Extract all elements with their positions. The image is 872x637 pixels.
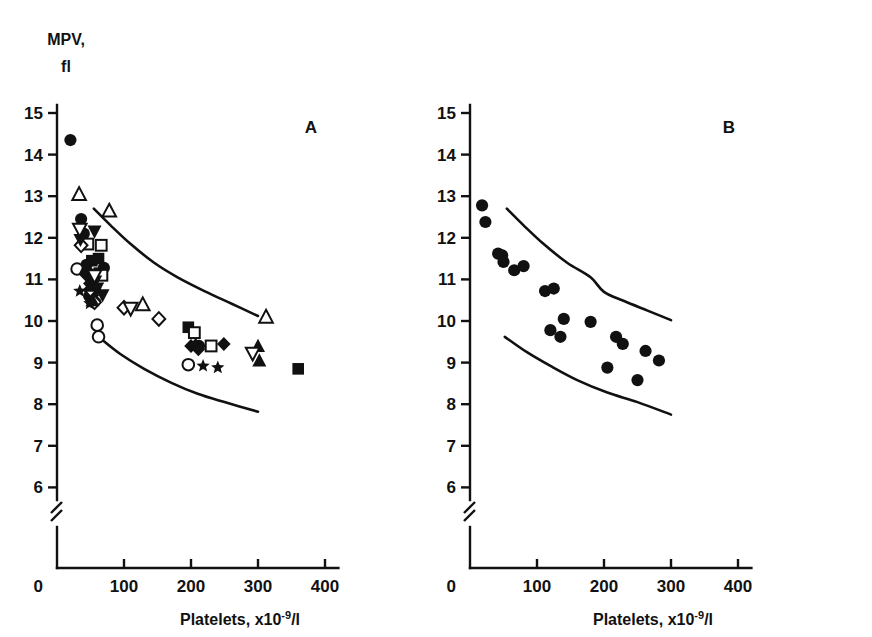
x-tick-label: 300	[657, 577, 685, 596]
y-tick-label: 11	[438, 270, 456, 289]
x-tick-label: 400	[311, 577, 339, 596]
data-point-open-up-triangle	[259, 310, 273, 323]
data-point-filled-circle	[554, 331, 566, 343]
y-tick-label-zero: 0	[447, 577, 456, 596]
x-tick-label: 400	[724, 577, 752, 596]
data-point-open-up-triangle	[72, 187, 86, 200]
x-tick-label: 100	[523, 577, 551, 596]
data-point-open-diamond	[152, 312, 165, 326]
y-tick-label: 6	[447, 478, 456, 497]
x-tick-label: 300	[244, 577, 272, 596]
panel-A: 67891011121314150100200300400APlatelets,…	[24, 104, 339, 628]
data-point-filled-circle	[64, 134, 76, 146]
x-tick-label: 200	[177, 577, 205, 596]
data-point-filled-circle	[476, 199, 488, 211]
panel-label-A: A	[305, 118, 317, 137]
data-point-filled-circle	[497, 256, 509, 268]
x-tick-label: 200	[590, 577, 618, 596]
y-tick-label: 8	[447, 395, 456, 414]
y-tick-label: 9	[34, 354, 43, 373]
series-filled-circle	[476, 199, 665, 386]
y-tick-label: 8	[34, 395, 43, 414]
data-point-filled-circle	[479, 216, 491, 228]
data-point-filled-star	[196, 359, 209, 372]
data-point-open-square	[96, 240, 107, 251]
y-tick-label: 13	[24, 187, 43, 206]
y-tick-label: 9	[447, 354, 456, 373]
data-point-filled-star	[211, 361, 224, 374]
data-point-filled-circle	[558, 313, 570, 325]
y-axis-title-line1: MPV,	[47, 31, 85, 48]
y-tick-label: 12	[437, 229, 456, 248]
x-axis-title: Platelets, x10-9/l	[593, 609, 713, 628]
data-point-filled-circle	[639, 345, 651, 357]
y-tick-label: 10	[24, 312, 43, 331]
reference-curve-lower-normal-limit	[101, 338, 258, 411]
data-point-filled-circle	[601, 361, 613, 373]
y-tick-label: 6	[34, 478, 43, 497]
data-point-open-circle	[183, 359, 195, 371]
data-point-open-square	[189, 327, 200, 338]
y-tick-label: 14	[24, 146, 43, 165]
figure-root: MPV,fl67891011121314150100200300400APlat…	[0, 0, 872, 637]
y-tick-label: 12	[24, 229, 43, 248]
y-tick-label: 7	[447, 437, 456, 456]
y-tick-label-zero: 0	[34, 577, 43, 596]
y-tick-label: 15	[437, 104, 456, 123]
panel-B: 67891011121314150100200300400BPlatelets,…	[437, 104, 752, 628]
data-point-open-circle	[93, 331, 105, 343]
data-point-filled-diamond	[217, 337, 231, 351]
data-point-filled-circle	[548, 282, 560, 294]
series-filled-square	[86, 253, 304, 375]
data-point-open-square	[206, 341, 217, 352]
panel-label-B: B	[723, 118, 735, 137]
reference-curve-upper-normal-limit	[507, 209, 671, 320]
y-tick-label: 15	[24, 104, 43, 123]
y-tick-label: 10	[437, 312, 456, 331]
data-point-open-circle	[91, 319, 103, 331]
y-tick-label: 11	[25, 270, 43, 289]
y-axis-title-line2: fl	[61, 58, 71, 75]
y-tick-label: 13	[437, 187, 456, 206]
data-point-open-up-triangle	[102, 204, 116, 217]
y-tick-label: 14	[437, 146, 456, 165]
x-axis-title: Platelets, x10-9/l	[180, 609, 300, 628]
x-tick-label: 100	[110, 577, 138, 596]
reference-curve-upper-normal-limit	[94, 209, 258, 316]
data-point-filled-square	[292, 363, 304, 375]
data-point-filled-circle	[631, 374, 643, 386]
data-point-filled-circle	[585, 316, 597, 328]
data-point-filled-square	[93, 253, 105, 265]
data-point-filled-circle	[653, 354, 665, 366]
data-point-filled-circle	[518, 260, 530, 272]
figure-canvas: MPV,fl67891011121314150100200300400APlat…	[0, 0, 872, 637]
data-point-filled-circle	[617, 338, 629, 350]
data-point-filled-circle	[544, 324, 556, 336]
y-tick-label: 7	[34, 437, 43, 456]
